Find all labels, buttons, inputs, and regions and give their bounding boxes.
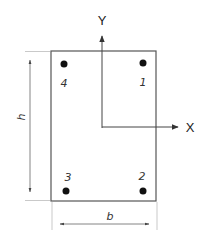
x-axis-label: X	[186, 120, 195, 135]
bar-1-dot	[140, 60, 147, 67]
h-label: h	[15, 113, 28, 120]
bar-2-dot	[140, 188, 147, 195]
bar-4-dot	[61, 61, 68, 68]
y-axis-label: Y	[98, 13, 107, 28]
bar-3-label: 3	[65, 171, 72, 184]
bar-3-dot	[63, 188, 70, 195]
bar-2-label: 2	[139, 170, 146, 183]
bar-1-label: 1	[140, 76, 147, 89]
section-diagram: h b Y X 1 2 3 4	[0, 0, 208, 242]
bar-4-label: 4	[61, 77, 68, 90]
b-label: b	[107, 210, 114, 223]
